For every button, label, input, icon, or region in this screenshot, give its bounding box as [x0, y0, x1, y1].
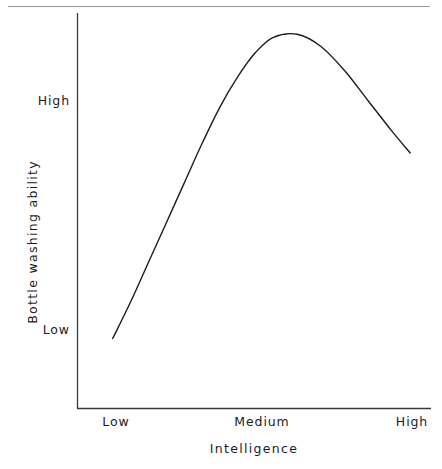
y-tick-label-high: High [38, 93, 70, 108]
data-series-curve [113, 34, 410, 339]
x-tick-label-high: High [396, 414, 428, 429]
chart-figure: High Low Low Medium High Intelligence Bo… [0, 0, 442, 469]
x-axis-title: Intelligence [210, 441, 298, 456]
x-tick-label-medium: Medium [234, 414, 289, 429]
x-tick-label-low: Low [102, 414, 129, 429]
plot-canvas [0, 0, 442, 469]
y-tick-label-low: Low [43, 322, 70, 337]
y-axis-title: Bottle washing ability [25, 160, 40, 324]
